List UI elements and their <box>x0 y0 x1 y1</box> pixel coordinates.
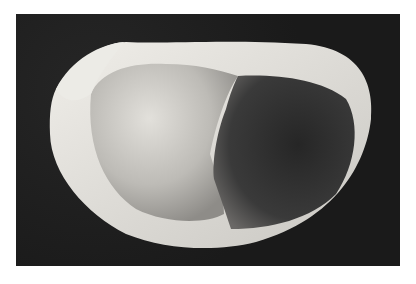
shell-photo <box>16 14 400 266</box>
shell-illustration <box>16 14 400 266</box>
